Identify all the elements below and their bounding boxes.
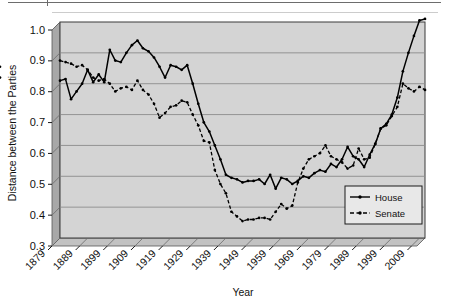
x-tick (214, 246, 218, 250)
data-point (208, 141, 211, 144)
data-point (119, 61, 122, 64)
data-point (258, 217, 261, 220)
data-point (214, 169, 217, 172)
data-point (108, 48, 111, 51)
x-tick (76, 246, 80, 250)
data-point (81, 82, 84, 85)
data-point (363, 166, 366, 169)
x-tick-label: 1929 (161, 247, 186, 272)
data-point (402, 82, 405, 85)
data-point (75, 90, 78, 93)
x-tick-label: 1909 (105, 247, 130, 272)
x-tick (407, 246, 411, 250)
figure-container: 0.30.40.50.60.70.80.91.0 187918891899190… (0, 0, 449, 305)
data-point (164, 112, 167, 115)
data-point (374, 143, 377, 146)
y-axis-title: Distance between the Parties (6, 65, 18, 202)
data-point (147, 50, 150, 53)
data-point (313, 172, 316, 175)
data-point (274, 187, 277, 190)
data-point (219, 158, 222, 161)
x-tick (242, 246, 246, 250)
data-point (125, 52, 128, 55)
legend-label-senate: Senate (375, 208, 405, 219)
x-tick-label: 1919 (133, 247, 158, 272)
x-tick-label: 1979 (299, 247, 324, 272)
data-point (175, 65, 178, 68)
data-point (390, 115, 393, 118)
data-point (158, 65, 161, 68)
data-point (0, 65, 1, 68)
data-point (197, 124, 200, 127)
x-tick (297, 246, 301, 250)
data-point (368, 156, 371, 159)
x-tick-label: 1969 (271, 247, 296, 272)
data-point (396, 96, 399, 99)
data-point (175, 104, 178, 107)
data-point (214, 144, 217, 147)
data-point (285, 207, 288, 210)
data-point (335, 166, 338, 169)
data-point (142, 89, 145, 92)
data-point (413, 90, 416, 93)
data-point (291, 204, 294, 207)
data-point (357, 147, 360, 150)
data-point (330, 163, 333, 166)
x-tick (380, 246, 384, 250)
x-tick-label: 1949 (216, 247, 241, 272)
x-axis-title: Year (232, 286, 254, 298)
legend[interactable]: House Senate (345, 186, 422, 224)
data-point (308, 158, 311, 161)
data-point (341, 158, 344, 161)
data-point (180, 68, 183, 71)
x-tick (48, 246, 52, 250)
data-point (269, 173, 272, 176)
data-point (0, 76, 1, 79)
x-tick (159, 246, 163, 250)
data-point (247, 180, 250, 183)
data-point (97, 79, 100, 82)
data-point (296, 181, 299, 184)
data-point (153, 56, 156, 59)
data-point (258, 178, 261, 181)
data-point (131, 44, 134, 47)
data-point (319, 152, 322, 155)
data-point (92, 81, 95, 84)
data-point (202, 139, 205, 142)
data-point (191, 82, 194, 85)
y-tick-label: 1.0 (30, 24, 45, 36)
data-point (346, 146, 349, 149)
x-tick-label: 1939 (188, 247, 213, 272)
data-point (236, 178, 239, 181)
data-point (97, 73, 100, 76)
data-point (302, 175, 305, 178)
data-point (385, 124, 388, 127)
data-point (247, 218, 250, 221)
data-point (352, 164, 355, 167)
data-point (402, 70, 405, 73)
data-point (407, 87, 410, 90)
data-point (407, 52, 410, 55)
data-point (147, 93, 150, 96)
data-point (335, 158, 338, 161)
legend-marker-house (358, 195, 361, 198)
data-point (241, 220, 244, 223)
data-point (252, 218, 255, 221)
x-tick-label: 2009 (382, 247, 407, 272)
x-tick (269, 246, 273, 250)
data-point (136, 39, 139, 42)
data-point (81, 64, 84, 67)
data-point (59, 59, 62, 62)
x-tick-label: 1899 (78, 247, 103, 272)
data-point (92, 76, 95, 79)
y-axis: 0.30.40.50.60.70.80.91.0 (30, 24, 52, 252)
data-point (186, 101, 189, 104)
data-point (396, 106, 399, 109)
data-point (225, 192, 228, 195)
data-point (424, 18, 427, 21)
y-tick-label: 0.5 (30, 178, 45, 190)
data-point (114, 90, 117, 93)
data-point (86, 68, 89, 71)
data-point (164, 76, 167, 79)
x-tick-label: 1889 (50, 247, 75, 272)
